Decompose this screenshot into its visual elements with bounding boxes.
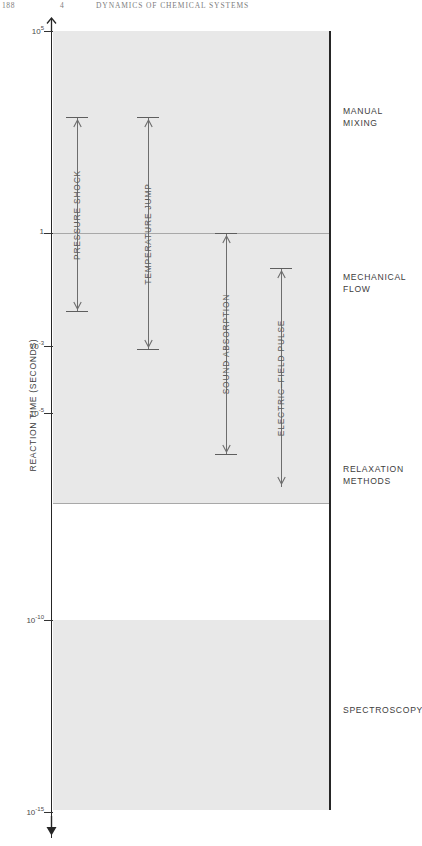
category-label-line: FLOW: [343, 284, 421, 296]
method-arrow-cap-bottom: [66, 311, 88, 312]
method-arrow-label: SOUND ABSORPTION: [221, 294, 231, 395]
method-arrow-label: PRESSURE SHOCK: [72, 169, 82, 259]
method-arrow-label: ELECTRIC–FIELD PULSE: [276, 319, 286, 436]
category-label-line: MANUAL: [343, 106, 421, 118]
running-head-title: DYNAMICS OF CHEMICAL SYSTEMS: [96, 1, 249, 10]
category-label: SPECTROSCOPY: [343, 705, 421, 717]
method-arrowhead-down: [73, 301, 82, 310]
y-tick-label-2: 10-3: [0, 340, 48, 351]
method-arrowhead-down: [277, 476, 286, 485]
method-arrowhead-up: [73, 119, 82, 128]
plot-right-border: [329, 31, 331, 810]
y-tick-label-3: 10-5: [0, 407, 48, 418]
category-label: MANUALMIXING: [343, 106, 421, 129]
category-label: RELAXATIONMETHODS: [343, 464, 421, 487]
method-arrow: PRESSURE SHOCK: [61, 117, 93, 312]
band-separator-1: [53, 503, 330, 504]
page-folio: 188: [2, 1, 15, 10]
band-separator-0: [53, 233, 330, 234]
category-label-line: METHODS: [343, 476, 421, 488]
method-arrowhead-up: [144, 119, 153, 128]
method-arrowhead-up: [277, 270, 286, 279]
y-axis-title: REACTION TIME (SECONDS): [28, 310, 38, 500]
category-label-line: MECHANICAL: [343, 272, 421, 284]
y-tick-label-4: 10-10: [0, 614, 48, 625]
chapter-number: 4: [60, 1, 64, 10]
figure-page: 188 4 DYNAMICS OF CHEMICAL SYSTEMS 10511…: [0, 0, 422, 846]
category-label-line: MIXING: [343, 118, 421, 130]
running-head: 188 4 DYNAMICS OF CHEMICAL SYSTEMS: [0, 0, 422, 14]
method-arrow-cap-bottom: [137, 349, 159, 350]
method-arrow: TEMPERATURE JUMP: [132, 117, 164, 350]
y-axis-line: [51, 26, 52, 838]
y-tick-label-5: 10-15: [0, 806, 48, 817]
category-label-line: RELAXATION: [343, 464, 421, 476]
method-arrowhead-down: [222, 444, 231, 453]
method-arrowhead-up: [222, 235, 231, 244]
method-arrowhead-down: [144, 339, 153, 348]
y-tick-label-1: 1: [0, 227, 48, 236]
axis-arrow-down-icon: [44, 816, 59, 836]
method-arrow: SOUND ABSORPTION: [210, 233, 242, 455]
category-label: MECHANICALFLOW: [343, 272, 421, 295]
category-label-line: SPECTROSCOPY: [343, 705, 421, 717]
y-tick-label-0: 105: [0, 25, 48, 36]
method-arrow-label: TEMPERATURE JUMP: [143, 183, 153, 284]
method-arrow: ELECTRIC–FIELD PULSE: [265, 268, 297, 487]
method-arrow-cap-bottom: [215, 454, 237, 455]
shaded-band-lower: [53, 620, 330, 810]
